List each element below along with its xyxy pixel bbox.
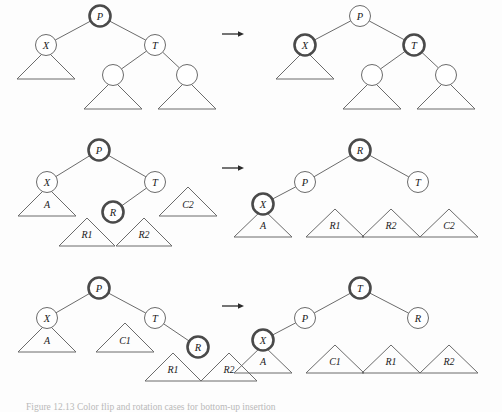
row-2-before-tree: AC2R1R2PXTR (18, 140, 217, 247)
row-1-before-tree: PXT (17, 6, 216, 110)
subtree-label: R1 (80, 229, 92, 240)
row-2-after-tree: AR1R2C2RPTX (234, 140, 478, 238)
tree-node (103, 65, 124, 86)
tree-edge (272, 187, 295, 199)
subtree-label: R1 (328, 220, 340, 231)
tree-node-label: R (194, 342, 202, 353)
subtree-label: R2 (384, 220, 396, 231)
tree-node-label: P (356, 11, 364, 22)
subtree-label: C1 (329, 356, 341, 367)
tree-node (177, 65, 198, 86)
tree-node-label: R (356, 145, 364, 156)
right-arrow-icon (238, 31, 244, 37)
subtree-label: R1 (384, 356, 396, 367)
row-3-after-tree: AC1R1R2TPRX (234, 278, 478, 374)
subtree-label: R2 (222, 364, 234, 375)
subtree-label: C1 (119, 335, 131, 346)
subtree-label: A (259, 356, 267, 367)
tree-diagram-canvas: PXTPXTAC2R1R2PXTRAR1R2C2RPTXAC1R1R2PXTRA… (0, 0, 502, 412)
tree-node-label: P (301, 313, 309, 324)
tree-node-label: R (414, 313, 422, 324)
tree-edge (122, 188, 147, 206)
subtree-label: A (259, 220, 267, 231)
tree-node (436, 65, 457, 86)
tree-edge (122, 51, 147, 69)
tree-node-label: P (301, 177, 309, 188)
right-arrow-icon (238, 303, 244, 309)
tree-edge (108, 155, 146, 177)
subtree-label: A (43, 335, 51, 346)
row-2-transform-arrow (222, 165, 244, 171)
row-1-after-tree: PXT (276, 6, 475, 110)
tree-edge (369, 21, 405, 40)
tree-edge (56, 293, 90, 313)
tree-node-label: R (109, 207, 117, 218)
tree-node-label: X (259, 199, 267, 210)
tree-edge (55, 21, 91, 40)
tree-edge (109, 21, 145, 40)
figure-caption-partial: Figure 12.13 Color flip and rotation cas… (0, 403, 502, 412)
row-3-transform-arrow (222, 303, 244, 309)
tree-node-label: X (259, 335, 267, 346)
row-1-transform-arrow (222, 31, 244, 37)
tree-node-label: P (96, 11, 104, 22)
tree-node (362, 65, 383, 86)
tree-node-label: P (95, 283, 103, 294)
tree-edge (164, 324, 190, 341)
subtree-label: R2 (137, 229, 149, 240)
subtree-label: C2 (182, 199, 194, 210)
tree-edge (314, 293, 351, 313)
figure-root: PXTPXTAC2R1R2PXTRAR1R2C2RPTXAC1R1R2PXTRA… (0, 0, 502, 412)
tree-node-label: P (95, 145, 103, 156)
tree-edge (369, 155, 409, 177)
subtree-label: C2 (443, 220, 455, 231)
tree-node-label: X (43, 177, 51, 188)
tree-edge (314, 155, 351, 176)
right-arrow-icon (238, 165, 244, 171)
tree-edge (108, 293, 145, 313)
tree-edge (272, 323, 295, 335)
tree-edge (422, 52, 439, 68)
tree-node-label: X (43, 313, 51, 324)
subtree-label: A (43, 199, 51, 210)
subtree-label: R1 (166, 364, 178, 375)
tree-node-label: X (42, 40, 50, 51)
tree-node-label: X (301, 40, 309, 51)
tree-edge (56, 156, 90, 177)
subtree-label: R2 (442, 356, 454, 367)
tree-edge (314, 21, 350, 40)
tree-edge (163, 52, 180, 68)
tree-edge (369, 293, 408, 313)
row-3-before-tree: AC1R1R2PXTR (18, 278, 257, 382)
tree-edge (381, 51, 406, 69)
figure-caption-text: Figure 12.13 Color flip and rotation cas… (26, 403, 502, 412)
